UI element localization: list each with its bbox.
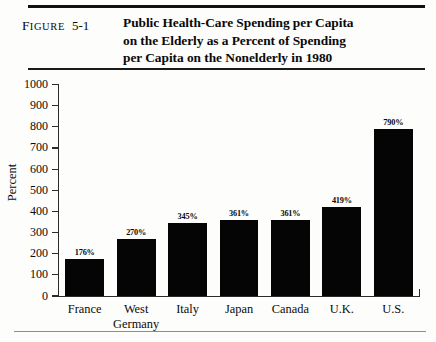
x-axis-end-tick <box>419 289 420 296</box>
bar-value-label: 419% <box>312 196 371 205</box>
figure-page: FIGURE5-1 Public Health-Care Spending pe… <box>0 0 436 342</box>
bar-value-label: 361% <box>210 209 269 218</box>
y-axis-title: Percent <box>5 153 20 213</box>
x-axis-category-label-line: France <box>68 302 102 316</box>
y-axis-tick-mark <box>52 232 58 233</box>
x-axis-category-label-line: Germany <box>103 317 170 332</box>
y-axis-tick-label: 900 <box>8 99 48 111</box>
y-axis-tick-label: 300 <box>8 226 48 238</box>
bar-value-label: 176% <box>55 248 114 257</box>
y-axis-tick-mark <box>52 147 58 148</box>
y-axis-tick-mark <box>52 274 58 275</box>
x-axis-category-label-line: Italy <box>176 302 199 316</box>
y-axis-tick-label: 800 <box>8 120 48 132</box>
y-axis-tick-label: 200 <box>8 247 48 259</box>
y-axis-tick-label: 500 <box>8 184 48 196</box>
y-axis-tick-label: 400 <box>8 205 48 217</box>
x-axis-category-label-line: Canada <box>272 302 309 316</box>
bar-value-label: 790% <box>364 118 423 127</box>
y-axis-line <box>58 84 59 297</box>
y-axis-tick-label: 700 <box>8 141 48 153</box>
bar-value-label: 345% <box>158 212 217 221</box>
y-axis-tick-label: 600 <box>8 163 48 175</box>
bar-chart: Percent 01002003004005006007008009001000… <box>0 0 436 342</box>
y-axis-tick-label: 100 <box>8 268 48 280</box>
y-axis-tick-mark <box>52 169 58 170</box>
x-axis-category-label-line: U.K. <box>330 302 354 316</box>
x-axis-category-label: U.S. <box>360 302 427 317</box>
bar <box>271 220 310 296</box>
y-axis-tick-mark <box>52 295 58 296</box>
bar <box>65 259 104 296</box>
x-axis-category-label-line: Japan <box>225 302 253 316</box>
bar <box>322 207 361 296</box>
y-axis-tick-mark <box>52 211 58 212</box>
x-axis-category-label-line: U.S. <box>382 302 404 316</box>
bar-value-label: 270% <box>107 228 166 237</box>
y-axis-tick-mark <box>52 84 58 85</box>
bar <box>374 129 413 296</box>
y-axis-tick-label: 0 <box>8 290 48 302</box>
y-axis-tick-mark <box>52 105 58 106</box>
y-axis-tick-label: 1000 <box>8 78 48 90</box>
bar <box>117 239 156 296</box>
bar-value-label: 361% <box>261 209 320 218</box>
x-axis-category-label-line: West <box>124 302 148 316</box>
y-axis-tick-mark <box>52 190 58 191</box>
bar <box>168 223 207 296</box>
bar <box>220 220 259 296</box>
y-axis-tick-mark <box>52 126 58 127</box>
